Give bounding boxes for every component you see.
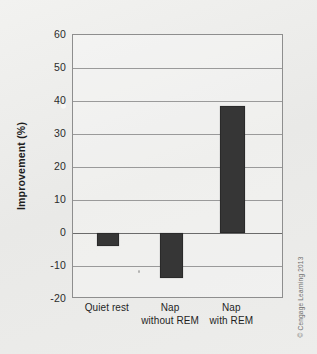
y-tick-label: 50 <box>26 61 66 73</box>
bar-2 <box>220 106 245 233</box>
copyright-credit: © Cengage Learning 2013 <box>297 257 304 338</box>
x-tick-label-line: with REM <box>186 315 276 328</box>
figure-container: Improvement (%) 6050403020100-10-20 Quie… <box>0 0 317 354</box>
y-tick-label: 0 <box>26 226 66 238</box>
scan-artifact-speck <box>138 270 140 273</box>
bar-1 <box>160 233 183 278</box>
gridline-30 <box>73 134 282 135</box>
y-tick-label: 30 <box>26 127 66 139</box>
gridline-10 <box>73 200 282 201</box>
bar-0 <box>97 233 119 246</box>
gridline-40 <box>73 101 282 102</box>
x-tick-label-line: Nap <box>186 302 276 315</box>
y-tick-label: -20 <box>26 292 66 304</box>
y-tick-label: 10 <box>26 193 66 205</box>
gridline-50 <box>73 68 282 69</box>
plot-area <box>72 34 283 298</box>
gridline-20 <box>73 167 282 168</box>
y-tick-label: 40 <box>26 94 66 106</box>
y-tick-label: -10 <box>26 259 66 271</box>
y-tick-label: 60 <box>26 28 66 40</box>
x-tick-label: Napwith REM <box>186 302 276 327</box>
y-tick-label: 20 <box>26 160 66 172</box>
